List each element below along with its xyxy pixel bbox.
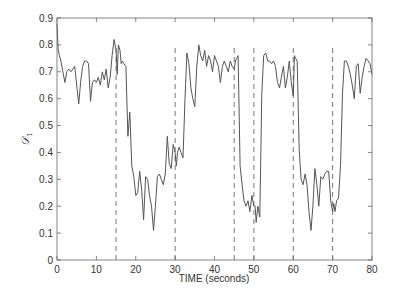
- x-tick-label: 60: [288, 264, 300, 275]
- y-tick-label: 0.2: [39, 201, 53, 212]
- y-axis-label-subscript: 1: [26, 132, 34, 136]
- x-tick-label: 20: [130, 264, 142, 275]
- x-tick-label: 10: [91, 264, 103, 275]
- x-tick-label: 80: [366, 264, 378, 275]
- d1-series-line: [57, 23, 372, 230]
- y-tick-label: 0.4: [39, 147, 53, 158]
- y-axis-ticks: 00.10.20.30.40.50.60.70.80.9: [39, 13, 372, 266]
- y-tick-label: 0: [47, 255, 53, 266]
- y-tick-label: 0.1: [39, 228, 53, 239]
- y-tick-label: 0.9: [39, 13, 53, 24]
- vertical-dashed-markers: [116, 45, 333, 260]
- x-axis-label: TIME (seconds): [179, 273, 250, 284]
- y-axis-label: 𝒟1: [19, 132, 34, 145]
- x-tick-label: 70: [327, 264, 339, 275]
- x-tick-label: 0: [54, 264, 60, 275]
- x-axis-ticks: 01020304050607080: [54, 18, 378, 275]
- x-tick-label: 50: [248, 264, 260, 275]
- y-tick-label: 0.3: [39, 174, 53, 185]
- svg-text:𝒟1: 𝒟1: [19, 132, 34, 145]
- line-chart: 01020304050607080 00.10.20.30.40.50.60.7…: [0, 0, 393, 305]
- y-tick-label: 0.5: [39, 120, 53, 131]
- y-tick-label: 0.7: [39, 66, 53, 77]
- y-tick-label: 0.8: [39, 39, 53, 50]
- plot-frame: [57, 18, 372, 260]
- y-tick-label: 0.6: [39, 93, 53, 104]
